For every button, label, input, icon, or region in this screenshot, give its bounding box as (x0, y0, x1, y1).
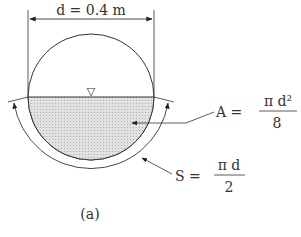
perimeter-leader (142, 158, 172, 174)
svg-text:A =: A = (215, 104, 242, 120)
perimeter-formula: S = π d 2 (175, 157, 245, 195)
water-surface-icon: ▽ (87, 85, 96, 98)
svg-text:π d: π d (218, 157, 241, 173)
diameter-label: d = 0.4 m (56, 2, 126, 18)
caption: (a) (80, 206, 99, 222)
svg-text:8: 8 (273, 115, 282, 131)
area-formula: A = π d² 8 (215, 93, 297, 131)
svg-text:π d²: π d² (264, 93, 292, 109)
water-area (28, 97, 154, 160)
svg-text:2: 2 (225, 179, 234, 195)
svg-text:S =: S = (175, 168, 201, 184)
diameter-dimension (28, 10, 154, 97)
semicircle-flow-diagram: d = 0.4 m ▽ A = π d² 8 S = π d 2 (a) (0, 0, 301, 237)
